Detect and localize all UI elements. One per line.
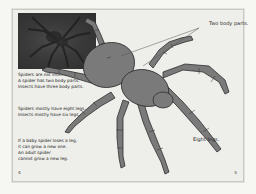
book-spread: Spiders are not insects. A spider has tw… xyxy=(12,9,244,182)
label-eight-legs: Eight legs. xyxy=(193,136,219,142)
spider-illustration-icon xyxy=(13,10,243,181)
page-number-right: 5 xyxy=(234,170,237,175)
label-two-body-parts: Two body parts. xyxy=(209,20,248,26)
